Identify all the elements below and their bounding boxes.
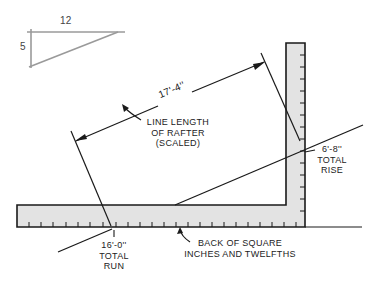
square-note-line2: INCHES AND TWELFTHS — [180, 249, 300, 260]
arrow-left-icon — [75, 134, 87, 141]
run-line2: TOTAL — [94, 251, 134, 262]
rise-value: 6'-8'' — [312, 144, 352, 155]
inset-pitch-triangle — [27, 29, 125, 68]
square-note: BACK OF SQUARE INCHES AND TWELFTHS — [180, 238, 300, 259]
rise-line3: RISE — [312, 165, 352, 176]
arrow-right-icon — [253, 62, 265, 70]
square-leader-arrowhead — [177, 227, 183, 234]
run-note: 16'-0'' TOTAL RUN — [94, 240, 134, 272]
rafter-note-line1: LINE LENGTH — [143, 117, 213, 128]
square-note-line1: BACK OF SQUARE — [180, 238, 300, 249]
run-value: 16'-0'' — [94, 240, 134, 251]
inset-rise-label: 5 — [20, 42, 26, 53]
run-line3: RUN — [94, 261, 134, 272]
rafter-note-line3: (SCALED) — [143, 138, 213, 149]
rise-line2: TOTAL — [312, 155, 352, 166]
inset-run-label: 12 — [60, 16, 72, 27]
rafter-note-line2: OF RAFTER — [143, 128, 213, 139]
rafter-note: LINE LENGTH OF RAFTER (SCALED) — [143, 117, 213, 149]
rise-note: 6'-8'' TOTAL RISE — [312, 144, 352, 176]
rafter-dimension-line-b — [192, 62, 264, 92]
